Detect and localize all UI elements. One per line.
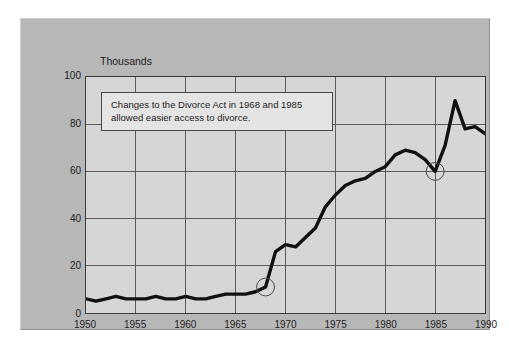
- y-axis-unit-label: Thousands: [100, 55, 152, 67]
- y-tick-label-100: 100: [47, 71, 81, 81]
- y-axis-tick-labels: 100806040200: [43, 76, 81, 314]
- x-tick-label-1965: 1965: [213, 319, 257, 330]
- y-tick-label-0: 0: [47, 309, 81, 319]
- y-tick-label-20: 20: [47, 261, 81, 271]
- annotation-line-2: allowed easier access to divorce.: [111, 111, 324, 124]
- x-tick-label-1990: 1990: [464, 319, 508, 330]
- y-tick-label-80: 80: [47, 119, 81, 129]
- chart-panel: Thousands 100806040200 19501955196019651…: [20, 18, 490, 330]
- x-tick-label-1955: 1955: [113, 319, 157, 330]
- x-tick-label-1970: 1970: [264, 319, 308, 330]
- x-tick-label-1975: 1975: [314, 319, 358, 330]
- x-axis-tick-labels: 195019551960196519701975198019851990: [85, 319, 486, 333]
- y-tick-label-40: 40: [47, 214, 81, 224]
- annotation-line-1: Changes to the Divorce Act in 1968 and 1…: [111, 98, 324, 111]
- divorce-act-annotation: Changes to the Divorce Act in 1968 and 1…: [101, 92, 333, 131]
- x-tick-label-1985: 1985: [414, 319, 458, 330]
- x-tick-label-1980: 1980: [364, 319, 408, 330]
- chart-figure: Thousands 100806040200 19501955196019651…: [0, 0, 509, 352]
- x-tick-label-1950: 1950: [63, 319, 107, 330]
- y-tick-label-60: 60: [47, 166, 81, 176]
- x-tick-label-1960: 1960: [163, 319, 207, 330]
